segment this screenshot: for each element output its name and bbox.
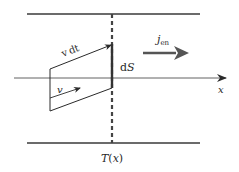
vdt-label: v dt xyxy=(59,42,81,59)
energy-flux-arrow xyxy=(143,46,189,60)
velocity-arrow xyxy=(50,88,80,98)
velocity-label: v xyxy=(57,84,63,95)
energy-flux-label: jen xyxy=(154,33,170,47)
diagram-canvas: v dt v dS jen x T(x) xyxy=(0,0,239,172)
x-axis-label: x xyxy=(218,84,224,95)
temperature-label: T(x) xyxy=(101,152,123,165)
dS-label: dS xyxy=(120,61,135,74)
flux-diagram: v dt v dS jen x T(x) xyxy=(0,0,239,172)
